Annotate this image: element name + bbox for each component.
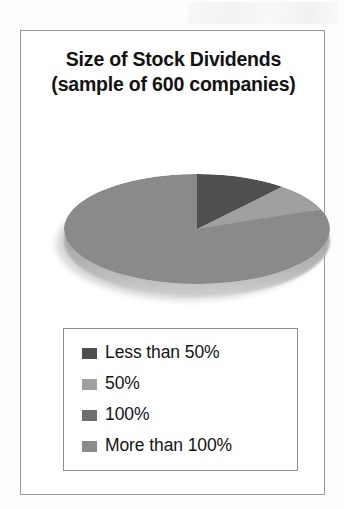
legend-swatch-icon: [82, 348, 97, 359]
legend-swatch-icon: [82, 410, 97, 421]
legend-item-list: Less than 50%50%100%More than 100%: [82, 340, 291, 459]
chart-legend: Less than 50%50%100%More than 100%: [63, 328, 298, 471]
pie-chart: [29, 126, 319, 326]
chart-frame: Size of Stock Dividends (sample of 600 c…: [20, 30, 325, 495]
legend-swatch-icon: [82, 441, 97, 452]
legend-swatch-icon: [82, 379, 97, 390]
scan-artifact: [188, 2, 338, 24]
chart-title-line-2: (sample of 600 companies): [21, 72, 326, 97]
pie-top-face: [64, 174, 330, 284]
legend-item[interactable]: 100%: [82, 402, 291, 428]
legend-item[interactable]: More than 100%: [82, 433, 291, 459]
chart-figure: Size of Stock Dividends (sample of 600 c…: [0, 0, 344, 509]
legend-item[interactable]: 50%: [82, 371, 291, 397]
chart-title: Size of Stock Dividends (sample of 600 c…: [21, 47, 326, 97]
legend-item-label: More than 100%: [105, 437, 232, 455]
legend-item[interactable]: Less than 50%: [82, 340, 291, 366]
legend-item-label: 50%: [105, 375, 140, 393]
legend-item-label: Less than 50%: [105, 344, 219, 362]
chart-title-line-1: Size of Stock Dividends: [21, 47, 326, 72]
pie-slices: [64, 174, 330, 284]
legend-item-label: 100%: [105, 406, 149, 424]
